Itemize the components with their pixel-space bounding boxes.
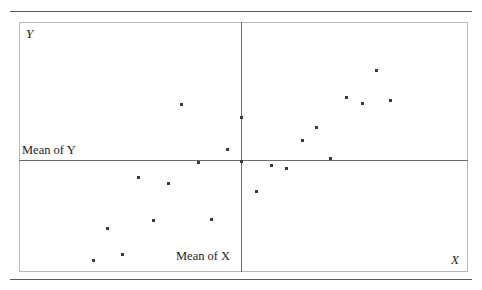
mean-of-y-reference-line — [19, 160, 468, 161]
x-axis-label: X — [451, 253, 459, 266]
mean-of-x-reference-line — [241, 22, 242, 272]
mean-of-y-label: Mean of Y — [22, 144, 76, 157]
scatter-figure: Y X Mean of Y Mean of X — [0, 0, 482, 290]
plot-area-frame — [19, 22, 468, 272]
mean-of-x-label: Mean of X — [176, 250, 230, 263]
bottom-divider-rule — [10, 279, 472, 280]
top-divider-rule — [10, 11, 472, 12]
y-axis-label: Y — [26, 27, 33, 40]
